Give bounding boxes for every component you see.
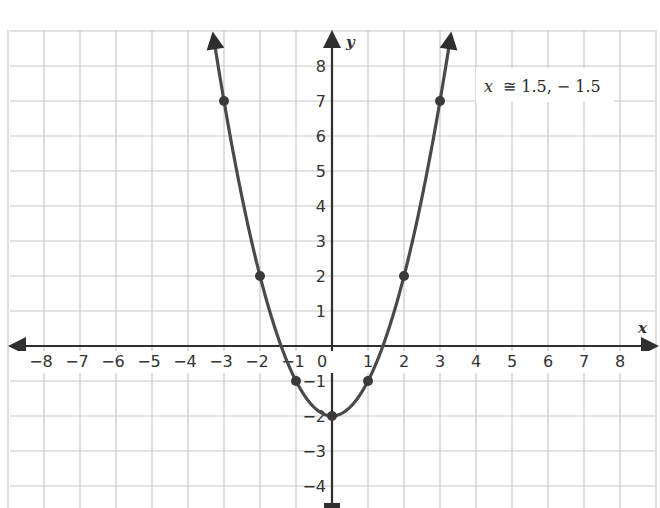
x-tick-label: −4 — [173, 352, 197, 371]
data-point — [255, 271, 265, 281]
data-point — [219, 96, 229, 106]
curve-right-arrow-icon — [440, 31, 458, 50]
x-tick-label: −3 — [209, 352, 233, 371]
x-tick-label: 2 — [399, 352, 409, 371]
curve-left-arrow-icon — [207, 31, 225, 50]
data-point — [435, 96, 445, 106]
y-tick-label: 3 — [316, 232, 326, 251]
y-tick-label: −4 — [302, 477, 326, 496]
data-point — [363, 376, 373, 386]
x-tick-label: 4 — [471, 352, 481, 371]
x-tick-label: 5 — [507, 352, 517, 371]
y-axis-up-arrow-icon — [323, 30, 341, 48]
x-tick-label: −7 — [65, 352, 89, 371]
y-tick-label: 2 — [316, 267, 326, 286]
origin-label: 0 — [317, 352, 327, 371]
y-tick-label: 7 — [316, 92, 326, 111]
annotation-values: 1.5, − 1.5 — [521, 77, 601, 96]
x-axis-label: x — [637, 319, 648, 337]
x-tick-label: 6 — [543, 352, 553, 371]
x-tick-label: 1 — [363, 352, 373, 371]
x-tick-label: −6 — [101, 352, 125, 371]
x-tick-labels: −8−7−6−5−4−3−2−112345678 — [10, 351, 655, 373]
y-tick-label: 8 — [316, 57, 326, 76]
y-axis-label: y — [345, 33, 356, 51]
x-tick-label: −8 — [29, 352, 53, 371]
y-axis-bottom-arrow-icon — [324, 503, 340, 508]
x-tick-label: 3 — [435, 352, 445, 371]
data-point — [327, 411, 337, 421]
y-tick-label: 1 — [316, 302, 326, 321]
y-tick-label: 6 — [316, 127, 326, 146]
parabola-graph: −8−7−6−5−4−3−2−112345678 87654321−1−2−3−… — [0, 0, 660, 508]
annotation-symbol: ≅ — [503, 77, 516, 96]
x-tick-label: 7 — [579, 352, 589, 371]
y-tick-label: −3 — [302, 442, 326, 461]
x-tick-label: −5 — [137, 352, 161, 371]
data-point — [399, 271, 409, 281]
y-tick-label: −2 — [302, 407, 326, 426]
data-point — [291, 376, 301, 386]
y-tick-label: 4 — [316, 197, 326, 216]
x-tick-label: −2 — [245, 352, 269, 371]
annotation-variable: x — [484, 77, 493, 96]
y-tick-label: 5 — [316, 162, 326, 181]
y-tick-label: −1 — [302, 372, 326, 391]
x-tick-label: 8 — [615, 352, 625, 371]
